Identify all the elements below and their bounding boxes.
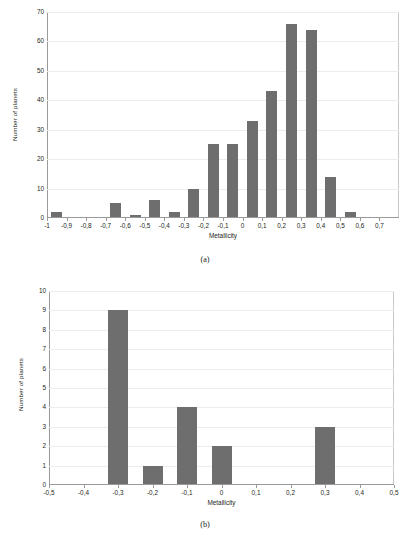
x-tick-mark [184,218,185,221]
x-tick-label: 0,4 [316,222,325,229]
x-tick-mark [321,218,322,221]
x-axis-label-a: Metallicity [47,232,399,239]
y-tick-label: 60 [37,38,44,44]
x-tick-label: 0,1 [258,222,267,229]
x-tick-mark [67,218,68,221]
x-tick-label: -0,5 [139,222,150,229]
y-tick-label: 4 [42,404,46,410]
y-tick-label: 10 [39,288,46,294]
x-tick-label: -1 [44,222,50,229]
x-tick-mark [262,218,263,221]
y-tick-label: 40 [37,97,44,103]
panel-a: Number of planets 010203040506070 -1-0,9… [0,0,410,275]
x-tick-mark [153,485,154,488]
y-tick-label: 70 [37,9,44,15]
plot-area-b: Number of planets 012345678910 -0,5-0,4-… [0,287,410,502]
y-tick-label: 9 [42,307,46,313]
y-tick-label: 0 [42,482,46,488]
y-tick-label: 8 [42,327,46,333]
x-tick-mark [84,485,85,488]
x-tick-mark [145,218,146,221]
panel-caption-a: (a) [0,255,410,264]
x-tick-mark [282,218,283,221]
y-tick-label: 1 [42,462,46,468]
x-tick-mark [223,218,224,221]
x-tick-label: 0,2 [286,489,295,496]
x-tick-mark [164,218,165,221]
x-tick-mark [222,485,223,488]
x-tick-label: 0 [241,222,245,229]
y-tick-label: 0 [40,215,44,221]
y-tick-label: 30 [37,127,44,133]
x-tick-label: 0,5 [390,489,399,496]
x-tick-label: -0,8 [81,222,92,229]
x-tick-label: 0,7 [375,222,384,229]
y-tick-label: 6 [42,365,46,371]
x-tick-mark [49,485,50,488]
x-tick-mark [360,485,361,488]
x-tick-mark [243,218,244,221]
x-tick-mark [203,218,204,221]
bar [315,427,335,485]
bar [108,310,128,485]
panel-b: Number of planets 012345678910 -0,5-0,4-… [0,275,410,539]
x-tick-label: -0,4 [159,222,170,229]
bar [227,144,238,218]
bar [149,200,160,218]
x-tick-label: -0,9 [61,222,72,229]
panel-caption-b: (b) [0,520,410,529]
bar [177,407,197,485]
x-tick-mark [301,218,302,221]
axes-b [49,291,394,485]
bar [247,121,258,218]
x-tick-label: -0,3 [178,222,189,229]
x-tick-mark [360,218,361,221]
bar [169,212,180,218]
x-tick-label: 0,3 [321,489,330,496]
bar-series-b [49,291,394,485]
x-tick-label: -0,2 [147,489,158,496]
x-tick-label: 0,5 [336,222,345,229]
bar [306,30,317,218]
x-tick-label: -0,7 [100,222,111,229]
x-tick-mark [291,485,292,488]
bar [130,215,141,218]
y-tick-label: 10 [37,185,44,191]
plot-area-a: Number of planets 010203040506070 -1-0,9… [0,8,410,243]
x-tick-label: 0,4 [355,489,364,496]
x-tick-mark [118,485,119,488]
bar-series-a [47,12,399,218]
bar [208,144,219,218]
y-axis-ticks-b: 012345678910 [21,291,49,485]
x-axis-label-b: Metallicity [49,499,394,506]
y-tick-label: 20 [37,156,44,162]
y-tick-label: 2 [42,443,46,449]
x-tick-label: 0,6 [355,222,364,229]
bar [345,212,356,218]
x-tick-mark [106,218,107,221]
bar [188,189,199,218]
x-tick-label: -0,5 [43,489,54,496]
x-tick-mark [86,218,87,221]
x-tick-label: 0,1 [252,489,261,496]
x-tick-mark [379,218,380,221]
bar [110,203,121,218]
bar [286,24,297,218]
x-tick-label: -0,3 [112,489,123,496]
y-tick-label: 5 [42,385,46,391]
x-tick-mark [394,485,395,488]
x-tick-label: 0,3 [297,222,306,229]
x-tick-mark [325,485,326,488]
x-tick-mark [187,485,188,488]
y-axis-ticks-a: 010203040506070 [19,12,47,218]
x-tick-mark [125,218,126,221]
y-tick-label: 7 [42,346,46,352]
figure-metallicity-histograms: Number of planets 010203040506070 -1-0,9… [0,0,410,539]
x-tick-mark [47,218,48,221]
bar [325,177,336,218]
x-tick-mark [256,485,257,488]
bar [266,91,277,218]
x-tick-label: -0,1 [217,222,228,229]
bar [51,212,62,218]
x-tick-label: -0,1 [181,489,192,496]
